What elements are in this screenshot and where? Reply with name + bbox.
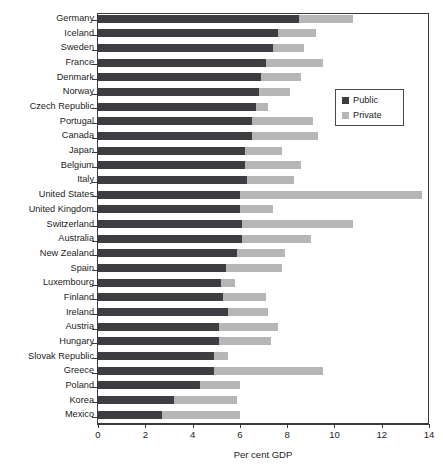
bar-segment-public: [98, 117, 252, 125]
bar-segment-public: [98, 249, 237, 257]
category-label: Mexico: [0, 409, 94, 420]
x-axis-tick: [334, 424, 335, 428]
bar-segment-public: [98, 352, 214, 360]
stacked-bar: [98, 161, 301, 169]
bar-row: Slovak Republic: [0, 351, 443, 367]
stacked-bar: [98, 29, 316, 37]
stacked-bar: [98, 367, 323, 375]
bar-segment-public: [98, 235, 242, 243]
bar-segment-private: [252, 132, 318, 140]
bar-row: Italy: [0, 174, 443, 190]
bar-row: Ireland: [0, 307, 443, 323]
bar-row: United States: [0, 189, 443, 205]
y-axis-tick: [92, 50, 97, 51]
y-axis-tick: [92, 285, 97, 286]
category-label: France: [0, 57, 94, 68]
y-axis-tick: [92, 226, 97, 227]
category-label: Japan: [0, 145, 94, 156]
stacked-bar: [98, 235, 311, 243]
bar-segment-private: [219, 323, 278, 331]
bar-row: Switzerland: [0, 219, 443, 235]
category-label: Austria: [0, 321, 94, 332]
category-label: Switzerland: [0, 219, 94, 230]
x-axis-tick: [382, 424, 383, 428]
category-label: New Zealand: [0, 248, 94, 259]
legend-swatch-public-icon: [342, 97, 349, 104]
bar-segment-private: [214, 352, 228, 360]
bar-row: Korea: [0, 395, 443, 411]
bar-segment-public: [98, 264, 226, 272]
bar-segment-public: [98, 44, 273, 52]
category-label: Greece: [0, 365, 94, 376]
bar-segment-private: [245, 161, 302, 169]
stacked-bar: [98, 59, 323, 67]
bar-segment-private: [240, 191, 422, 199]
x-axis-tick: [287, 424, 288, 428]
bar-segment-private: [245, 147, 283, 155]
x-axis-tick-label: 14: [414, 429, 443, 440]
bar-segment-public: [98, 396, 174, 404]
y-axis-tick: [92, 35, 97, 36]
stacked-bar: [98, 205, 273, 213]
x-axis-tick-label: 4: [178, 429, 208, 440]
y-axis-tick: [92, 79, 97, 80]
bar-segment-public: [98, 367, 214, 375]
category-label: Italy: [0, 174, 94, 185]
y-axis-tick: [92, 64, 97, 65]
bar-row: Iceland: [0, 28, 443, 44]
bar-segment-public: [98, 59, 266, 67]
stacked-bar: [98, 352, 228, 360]
bar-segment-public: [98, 132, 252, 140]
x-axis-title: Per cent GDP: [97, 449, 429, 460]
y-axis-tick: [92, 255, 97, 256]
category-label: Australia: [0, 233, 94, 244]
y-axis-tick: [92, 167, 97, 168]
x-axis-tick-label: 6: [225, 429, 255, 440]
bar-segment-private: [252, 117, 313, 125]
y-axis-tick: [92, 358, 97, 359]
category-label: Spain: [0, 263, 94, 274]
bar-row: United Kingdom: [0, 204, 443, 220]
bar-segment-public: [98, 205, 240, 213]
x-axis-tick-label: 8: [272, 429, 302, 440]
category-label: Portugal: [0, 116, 94, 127]
stacked-bar: [98, 44, 304, 52]
bar-segment-public: [98, 308, 228, 316]
y-axis-tick: [92, 241, 97, 242]
stacked-bar: [98, 308, 268, 316]
bar-segment-public: [98, 323, 219, 331]
stacked-bar: [98, 15, 353, 23]
bar-segment-private: [242, 235, 311, 243]
bar-segment-private: [174, 396, 238, 404]
category-label: Iceland: [0, 28, 94, 39]
bar-row: Hungary: [0, 336, 443, 352]
category-label: Slovak Republic: [0, 351, 94, 362]
stacked-bar: [98, 73, 301, 81]
bar-segment-public: [98, 381, 200, 389]
y-axis-tick: [92, 138, 97, 139]
x-axis-tick: [193, 424, 194, 428]
chart-title-clipped: [70, 0, 410, 3]
bar-row: Poland: [0, 380, 443, 396]
bar-segment-private: [219, 337, 271, 345]
stacked-bar: [98, 293, 266, 301]
y-axis-tick: [92, 196, 97, 197]
bar-rows: GermanyIcelandSwedenFranceDenmarkNorwayC…: [0, 13, 443, 424]
category-label: Hungary: [0, 336, 94, 347]
y-axis-tick: [92, 417, 97, 418]
bar-row: Denmark: [0, 72, 443, 88]
bar-row: Sweden: [0, 42, 443, 58]
y-axis-tick: [92, 182, 97, 183]
x-axis-tick: [145, 424, 146, 428]
category-label: Luxembourg: [0, 277, 94, 288]
stacked-bar: [98, 88, 290, 96]
bar-row: New Zealand: [0, 248, 443, 264]
y-axis-tick: [92, 152, 97, 153]
stacked-bar: [98, 323, 278, 331]
category-label: Finland: [0, 292, 94, 303]
bar-segment-public: [98, 88, 259, 96]
bar-segment-public: [98, 15, 299, 23]
bar-segment-private: [261, 73, 301, 81]
bar-segment-public: [98, 411, 162, 419]
stacked-bar: [98, 147, 282, 155]
